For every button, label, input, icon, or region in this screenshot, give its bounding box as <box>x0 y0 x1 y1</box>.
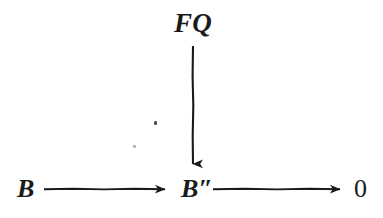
node-label-fq: FQ <box>174 10 212 37</box>
node-label-zero: 0 <box>354 176 367 202</box>
arrow-fq-to-bpp <box>193 46 194 164</box>
arrow-bpp-to-zero <box>213 189 340 190</box>
scan-speck-upper-icon <box>154 121 157 125</box>
node-label-b-double-prime: B″ <box>181 176 213 202</box>
node-label-b: B <box>17 176 35 202</box>
scan-speck-lower-icon <box>133 145 136 148</box>
arrow-b-to-bpp <box>44 189 165 190</box>
diagram-canvas: FQ B B″ 0 <box>0 0 383 218</box>
